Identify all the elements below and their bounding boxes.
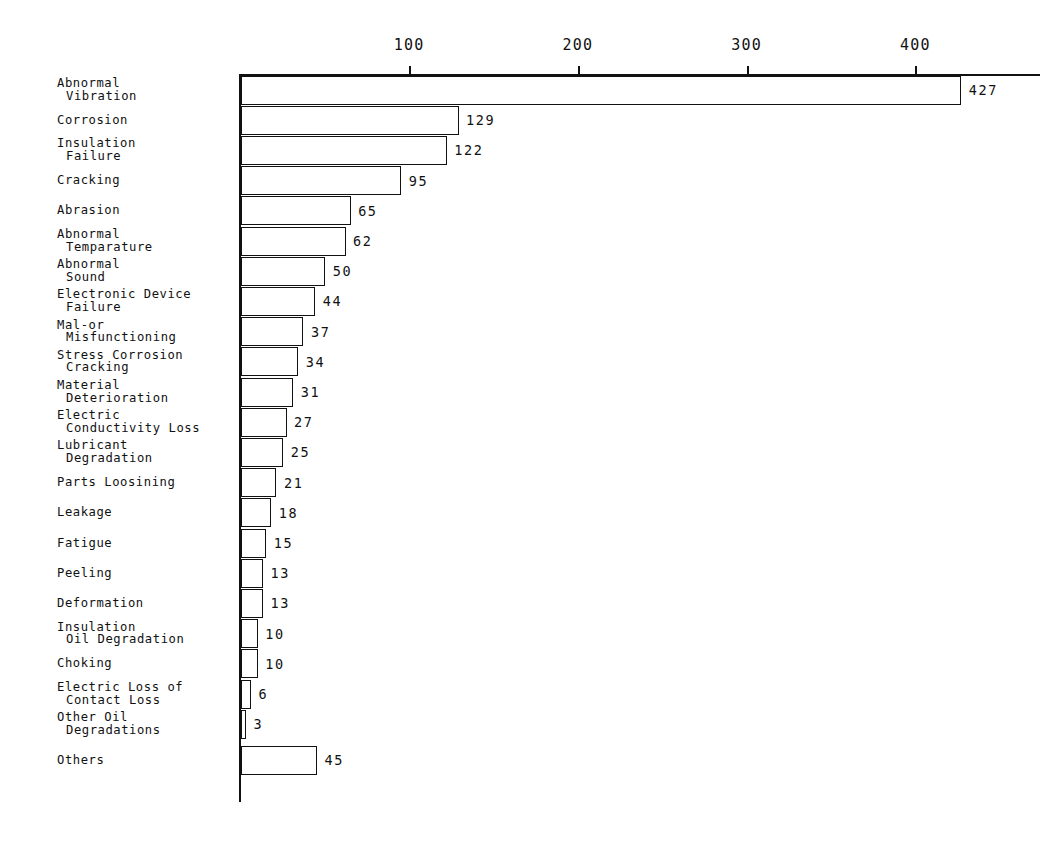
x-axis-tick-label: 400: [900, 38, 931, 53]
bar-value-label: 37: [311, 326, 330, 340]
category-label-line2: Temparature: [57, 241, 243, 254]
category-label-line1: Choking: [57, 657, 243, 670]
bar-value-label: 34: [306, 356, 325, 370]
bar: [241, 438, 283, 467]
category-label-line2: Deterioration: [57, 392, 243, 405]
bar: [241, 746, 317, 775]
x-axis-tick-label: 300: [731, 38, 762, 53]
category-label: InsulationOil Degradation: [57, 621, 243, 646]
bar-value-label: 25: [291, 446, 310, 460]
category-label-line2: Failure: [57, 150, 243, 163]
category-label-line1: Leakage: [57, 506, 243, 519]
bar: [241, 498, 271, 527]
bar-value-label: 129: [466, 114, 495, 128]
category-label: ElectricConductivity Loss: [57, 409, 243, 434]
category-label-line1: Cracking: [57, 174, 243, 187]
bar-value-label: 50: [333, 265, 352, 279]
category-label: Abrasion: [57, 204, 243, 217]
category-label: Parts Loosining: [57, 476, 243, 489]
x-axis-tick: [409, 66, 411, 75]
category-label-line1: Electric: [57, 409, 243, 422]
category-label: AbnormalSound: [57, 258, 243, 283]
bar: [241, 227, 346, 256]
bar: [241, 408, 287, 437]
category-label: LubricantDegradation: [57, 439, 243, 464]
bar-value-label: 65: [358, 205, 377, 219]
category-label-line1: Deformation: [57, 597, 243, 610]
bar-value-label: 44: [323, 295, 342, 309]
category-label-line2: Failure: [57, 301, 243, 314]
category-label-line2: Misfunctioning: [57, 331, 243, 344]
bar-value-label: 21: [284, 477, 303, 491]
x-axis-tick-label: 200: [563, 38, 594, 53]
bar: [241, 589, 263, 618]
bar: [241, 649, 258, 678]
category-label-line1: Other Oil: [57, 711, 243, 724]
category-label: Mal-orMisfunctioning: [57, 319, 243, 344]
category-label-line1: Electric Loss of: [57, 681, 243, 694]
bar: [241, 559, 263, 588]
category-label-line2: Contact Loss: [57, 694, 243, 707]
x-axis-tick: [578, 66, 580, 75]
bar-value-label: 45: [324, 754, 343, 768]
category-label: AbnormalVibration: [57, 77, 243, 102]
category-label-line2: Degradation: [57, 452, 243, 465]
category-label-line1: Material: [57, 379, 243, 392]
bar: [241, 196, 351, 225]
category-label: Leakage: [57, 506, 243, 519]
bar-value-label: 122: [454, 144, 483, 158]
category-label: Stress CorrosionCracking: [57, 349, 243, 374]
category-label-line1: Abnormal: [57, 228, 243, 241]
category-label: Deformation: [57, 597, 243, 610]
category-label: Electronic DeviceFailure: [57, 288, 243, 313]
category-label-line2: Oil Degradation: [57, 633, 243, 646]
bar: [241, 347, 298, 376]
category-label-line2: Degradations: [57, 724, 243, 737]
category-label: InsulationFailure: [57, 137, 243, 162]
plot-area: 100200300400 427129122956562504437343127…: [0, 0, 1060, 842]
category-label-line2: Cracking: [57, 361, 243, 374]
bar-value-label: 13: [270, 597, 289, 611]
bar-value-label: 15: [274, 537, 293, 551]
category-label-line1: Corrosion: [57, 114, 243, 127]
bar: [241, 106, 459, 135]
bar: [241, 529, 266, 558]
bar-value-label: 31: [301, 386, 320, 400]
bar-value-label: 18: [279, 507, 298, 521]
category-label-line1: Abnormal: [57, 258, 243, 271]
bar-value-label: 95: [409, 175, 428, 189]
category-label: Cracking: [57, 174, 243, 187]
x-axis-tick: [747, 66, 749, 75]
bar-value-label: 13: [270, 567, 289, 581]
bar-value-label: 10: [265, 658, 284, 672]
category-label-line2: Vibration: [57, 90, 243, 103]
category-label-line1: Parts Loosining: [57, 476, 243, 489]
bar: [241, 378, 293, 407]
bar: [241, 76, 961, 105]
bar: [241, 136, 447, 165]
bar: [241, 287, 315, 316]
bar-value-label: 10: [265, 628, 284, 642]
bar-value-label: 427: [969, 84, 998, 98]
bar-value-label: 3: [254, 718, 264, 732]
bar-value-label: 27: [294, 416, 313, 430]
bar: [241, 619, 258, 648]
bar-value-label: 62: [353, 235, 372, 249]
category-label-line1: Fatigue: [57, 537, 243, 550]
category-label-line1: Abrasion: [57, 204, 243, 217]
category-label: Electric Loss ofContact Loss: [57, 681, 243, 706]
category-label: Others: [57, 754, 243, 767]
bar: [241, 166, 401, 195]
bar-value-label: 6: [259, 688, 269, 702]
category-label-line2: Conductivity Loss: [57, 422, 243, 435]
category-label: Fatigue: [57, 537, 243, 550]
category-label: Choking: [57, 657, 243, 670]
bar: [241, 257, 325, 286]
category-label-line1: Peeling: [57, 567, 243, 580]
bar-chart: 100200300400 427129122956562504437343127…: [0, 0, 1060, 842]
category-label: Corrosion: [57, 114, 243, 127]
category-label-line1: Abnormal: [57, 77, 243, 90]
bar: [241, 468, 276, 497]
category-label-line2: Sound: [57, 271, 243, 284]
x-axis-tick: [915, 66, 917, 75]
